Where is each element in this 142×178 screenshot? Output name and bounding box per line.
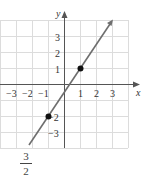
svg-text:2: 2 [94,88,99,99]
svg-text:−3: −3 [6,88,17,99]
fraction-bar [20,163,32,164]
svg-text:−3: −3 [48,128,59,139]
fraction-denominator: 2 [19,165,33,177]
svg-text:2: 2 [55,48,60,59]
point-neg1-neg2 [46,114,52,120]
y-axis-arrow-icon [62,11,68,18]
line-series [29,20,113,146]
svg-text:3: 3 [55,32,60,43]
svg-text:3: 3 [110,88,115,99]
y-axis-label: y [55,8,61,19]
x-axis-label: x [135,87,141,98]
axes [0,16,136,148]
svg-text:−2: −2 [22,88,33,99]
svg-text:1: 1 [78,88,83,99]
fraction-numerator: 3 [19,150,33,162]
point-1-1 [78,66,84,72]
slope-fraction: 3 2 [19,150,33,177]
svg-text:1: 1 [55,64,60,75]
svg-text:−1: −1 [38,88,49,99]
y-tick-labels: 3 2 1 −2 −3 [48,32,60,139]
